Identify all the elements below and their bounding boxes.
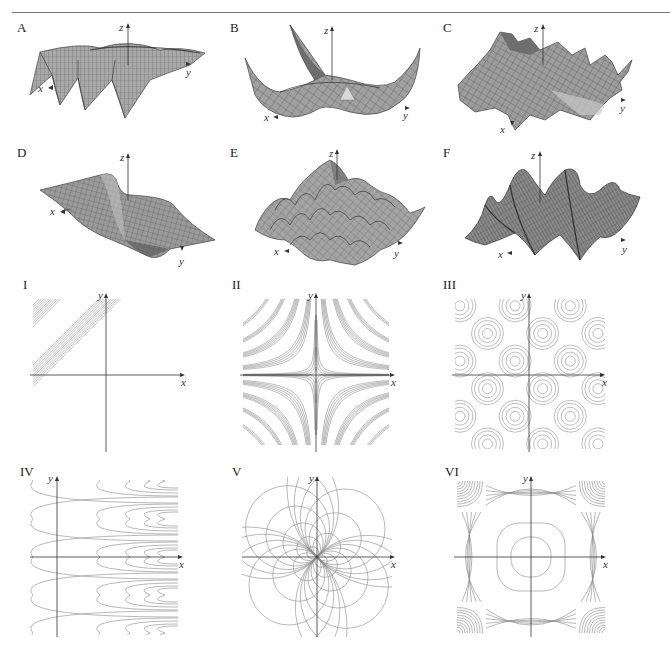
contour-plot-v: x y — [220, 455, 440, 645]
contour-plot-iii: x y — [440, 270, 670, 455]
y-arrow-icon — [529, 476, 533, 481]
axis-label-y: y — [520, 289, 526, 301]
axis-label-x: x — [497, 248, 503, 260]
axis-label-x: x — [273, 245, 279, 257]
y-arrow-icon — [104, 293, 108, 298]
surface-panel-c: C z y x — [440, 20, 670, 145]
axis-label-x: x — [602, 558, 608, 570]
y-arrow-icon — [315, 476, 319, 481]
axis-label-x: x — [178, 558, 184, 570]
axis-label-z: z — [119, 151, 125, 163]
axis-label-y: y — [47, 472, 53, 484]
axis-label-x: x — [390, 558, 396, 570]
contour-panel-v: V x y — [220, 455, 440, 645]
axis-label-z: z — [118, 21, 124, 33]
axis-label-y: y — [185, 66, 191, 78]
surface-plot-a: z y x — [0, 20, 220, 145]
surface-plot-c: z y x — [440, 20, 670, 145]
axis-label-x: x — [37, 82, 43, 94]
axis-label-y: y — [402, 109, 408, 121]
z-arrow-icon — [126, 23, 130, 28]
axis-label-z: z — [328, 147, 334, 159]
axis-label-x: x — [499, 123, 505, 135]
contour-plot-vi: x y — [440, 455, 670, 645]
contour-panel-iii: III x y — [440, 270, 670, 455]
axis-label-y: y — [619, 102, 625, 114]
contour-plot-ii: x y — [220, 270, 440, 455]
axis-label-x: x — [180, 376, 186, 388]
z-arrow-icon — [330, 26, 334, 31]
contour-panel-vi: VI x y — [440, 455, 670, 645]
axis-label-z: z — [323, 24, 329, 36]
surface-plot-d: z x y — [0, 145, 220, 270]
contour-plot-i: x y — [0, 270, 220, 455]
surface-plot-e: z y x — [220, 145, 440, 270]
surface-panel-a: A z y x — [0, 20, 220, 145]
axis-label-y: y — [97, 289, 103, 301]
axis-label-y: y — [308, 472, 314, 484]
y-arrow-icon — [55, 476, 59, 481]
axis-label-y: y — [621, 243, 627, 255]
axis-label-y: y — [307, 289, 313, 301]
axis-label-y: y — [393, 247, 399, 259]
contour-panel-iv: IV x y — [0, 455, 220, 645]
axis-label-x: x — [601, 376, 607, 388]
axis-label-z: z — [533, 22, 539, 34]
axis-label-x: x — [390, 376, 396, 388]
axis-label-y: y — [522, 472, 528, 484]
z-arrow-icon — [538, 151, 542, 156]
z-arrow-icon — [126, 153, 130, 158]
surface-panel-b: B z y x — [220, 20, 440, 145]
surface-panel-d: D z x y — [0, 145, 220, 270]
header-rule — [12, 12, 670, 13]
contour-panel-ii: II x y — [220, 270, 440, 455]
contour-plot-iv: x y — [0, 455, 220, 645]
y-arrow-icon — [527, 293, 531, 298]
surface-plot-b: z y x — [220, 20, 440, 145]
axis-label-y: y — [178, 255, 184, 267]
surface-panel-f: F z y x — [440, 145, 670, 270]
y-arrow-icon — [314, 293, 318, 298]
z-arrow-icon — [541, 24, 545, 29]
axis-label-z: z — [530, 149, 536, 161]
contour-panel-i: I x y — [0, 270, 220, 455]
surface-plot-f: z y x — [440, 145, 670, 270]
axis-label-x: x — [49, 205, 55, 217]
surface-panel-e: E z y x — [220, 145, 440, 270]
z-arrow-icon — [335, 149, 339, 154]
axis-label-x: x — [263, 111, 269, 123]
